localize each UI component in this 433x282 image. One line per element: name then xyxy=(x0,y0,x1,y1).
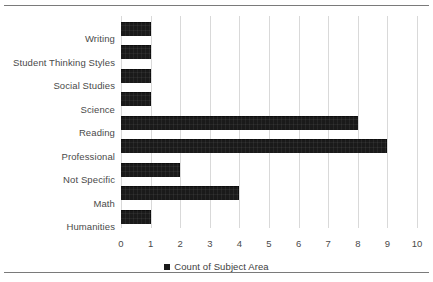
legend-label: Count of Subject Area xyxy=(174,261,269,272)
x-tick-label: 3 xyxy=(207,238,212,249)
category-label: Humanities xyxy=(0,215,115,239)
x-tick-label: 9 xyxy=(385,238,390,249)
category-label: Professional xyxy=(0,145,115,169)
category-axis-labels: Writing Student Thinking Styles Social S… xyxy=(0,26,115,238)
bar-row xyxy=(121,88,417,112)
bar-row xyxy=(121,41,417,65)
x-tick-label: 2 xyxy=(178,238,183,249)
bar-row xyxy=(121,182,417,206)
x-tick-label: 6 xyxy=(296,238,301,249)
bar-row xyxy=(121,111,417,135)
bar-row xyxy=(121,158,417,182)
bar xyxy=(121,22,151,36)
chart-legend: Count of Subject Area xyxy=(0,261,433,272)
bar-rows xyxy=(121,16,417,228)
bar xyxy=(121,45,151,59)
x-tick-label: 8 xyxy=(355,238,360,249)
plot-area xyxy=(121,16,417,228)
x-tick-label: 10 xyxy=(412,238,423,249)
bar-row xyxy=(121,64,417,88)
category-label: Reading xyxy=(0,121,115,145)
gridline xyxy=(417,16,418,228)
x-tick-label: 0 xyxy=(118,238,123,249)
bar xyxy=(121,116,358,130)
x-tick-label: 5 xyxy=(266,238,271,249)
bar-row xyxy=(121,135,417,159)
category-label: Writing xyxy=(0,27,115,51)
category-label: Science xyxy=(0,98,115,122)
x-tick-label: 1 xyxy=(148,238,153,249)
legend-square-icon xyxy=(164,264,170,270)
bar-row xyxy=(121,205,417,229)
category-label: Math xyxy=(0,192,115,216)
category-label: Social Studies xyxy=(0,74,115,98)
bar-chart: Writing Student Thinking Styles Social S… xyxy=(0,10,433,268)
bar-row xyxy=(121,17,417,41)
bar xyxy=(121,139,387,153)
bar xyxy=(121,186,239,200)
category-label: Student Thinking Styles xyxy=(0,51,115,75)
page-bottom-rule xyxy=(4,272,429,273)
bar xyxy=(121,163,180,177)
category-label: Not Specific xyxy=(0,168,115,192)
x-tick-label: 4 xyxy=(237,238,242,249)
bar xyxy=(121,210,151,224)
page-top-rule xyxy=(4,5,429,6)
value-axis-labels: 012345678910 xyxy=(121,238,417,252)
x-tick-label: 7 xyxy=(326,238,331,249)
bar xyxy=(121,69,151,83)
bar xyxy=(121,92,151,106)
